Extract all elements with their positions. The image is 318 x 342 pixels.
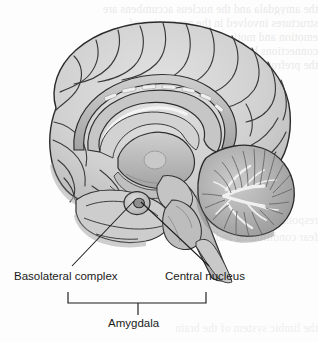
- amygdala: [124, 192, 150, 215]
- cerebellum: [196, 145, 294, 243]
- label-central-nucleus: Central nucleus: [165, 270, 245, 282]
- figure-container: the amygdala and the nucleus accumbens a…: [0, 0, 318, 342]
- brain-diagram-svg: [0, 0, 318, 342]
- amygdala-bracket: [68, 292, 206, 315]
- label-amygdala: Amygdala: [108, 317, 159, 329]
- bracket-path: [68, 292, 206, 303]
- label-basolateral-complex: Basolateral complex: [14, 270, 118, 282]
